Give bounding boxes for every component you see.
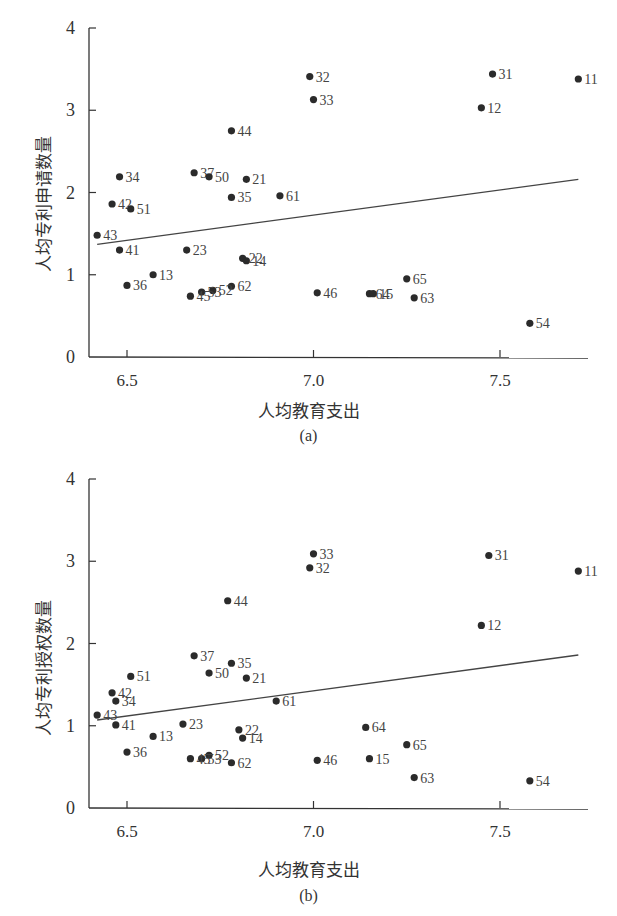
point-label: 23 xyxy=(189,717,203,732)
data-point: 33 xyxy=(310,93,334,108)
scatter-chart-a: 012346.57.07.511311232334437502134356142… xyxy=(0,0,617,458)
x-tick-label: 7.5 xyxy=(489,822,510,841)
point-label: 12 xyxy=(487,101,501,116)
point-label: 65 xyxy=(413,738,427,753)
data-points: 1131123233443750213435614251434123221413… xyxy=(94,67,598,331)
data-point: 63 xyxy=(411,291,435,306)
point-label: 61 xyxy=(286,189,300,204)
data-point: 36 xyxy=(123,278,147,293)
data-point: 13 xyxy=(150,729,174,744)
data-point: 32 xyxy=(306,70,330,85)
data-point: 15 xyxy=(370,287,394,302)
point-label: 35 xyxy=(237,656,251,671)
point-label: 32 xyxy=(316,70,330,85)
data-point: 46 xyxy=(314,286,338,301)
point-label: 23 xyxy=(193,243,207,258)
y-tick-label: 2 xyxy=(66,634,75,654)
data-point: 23 xyxy=(179,717,203,732)
data-point: 14 xyxy=(243,254,267,269)
axes: 012346.57.07.5 xyxy=(66,469,588,841)
data-point: 23 xyxy=(183,243,207,258)
data-point: 43 xyxy=(94,228,118,243)
point-label: 45 xyxy=(196,289,210,304)
point-label: 33 xyxy=(320,93,334,108)
data-point: 51 xyxy=(127,669,151,684)
y-tick-label: 0 xyxy=(66,798,75,818)
point-label: 44 xyxy=(234,594,248,609)
point-label: 45 xyxy=(196,752,210,767)
data-point: 45 xyxy=(187,752,211,767)
point-label: 11 xyxy=(584,564,597,579)
point-label: 13 xyxy=(159,268,173,283)
chart-b-caption: (b) xyxy=(0,887,617,905)
point-label: 50 xyxy=(215,666,229,681)
point-label: 46 xyxy=(323,286,337,301)
point-label: 31 xyxy=(495,548,509,563)
point-label: 14 xyxy=(252,254,266,269)
x-tick-label: 6.5 xyxy=(116,371,137,390)
point-label: 54 xyxy=(536,316,550,331)
data-point: 63 xyxy=(411,771,435,786)
point-label: 15 xyxy=(375,752,389,767)
point-label: 63 xyxy=(420,291,434,306)
point-label: 41 xyxy=(122,718,136,733)
point-label: 43 xyxy=(103,228,117,243)
data-point: 12 xyxy=(478,618,502,633)
y-tick-label: 3 xyxy=(66,551,75,571)
data-point: 31 xyxy=(485,548,509,563)
data-point: 62 xyxy=(228,756,252,771)
point-label: 43 xyxy=(103,708,117,723)
x-tick-label: 7.5 xyxy=(489,371,510,390)
point-label: 62 xyxy=(237,756,251,771)
data-point: 37 xyxy=(191,649,215,664)
data-point: 61 xyxy=(276,189,300,204)
point-label: 44 xyxy=(237,124,251,139)
data-point: 14 xyxy=(239,731,263,746)
data-point: 12 xyxy=(478,101,502,116)
data-point: 11 xyxy=(575,72,598,87)
x-tick-label: 6.5 xyxy=(116,822,137,841)
point-label: 33 xyxy=(320,547,334,562)
data-point: 34 xyxy=(112,694,136,709)
point-label: 36 xyxy=(133,745,147,760)
point-label: 12 xyxy=(487,618,501,633)
data-point: 32 xyxy=(306,561,330,576)
point-label: 32 xyxy=(316,561,330,576)
data-point: 65 xyxy=(403,272,427,287)
data-point: 45 xyxy=(187,289,211,304)
chart-b-y-axis-label: 人均专利授权数量 xyxy=(30,600,55,736)
data-point: 43 xyxy=(94,708,118,723)
point-label: 15 xyxy=(379,287,393,302)
trend-line xyxy=(97,179,578,244)
chart-a-x-axis-label: 人均教育支出 xyxy=(0,397,617,422)
point-label: 46 xyxy=(323,753,337,768)
y-tick-label: 1 xyxy=(66,265,75,285)
point-label: 34 xyxy=(126,170,140,185)
data-point: 13 xyxy=(150,268,174,283)
data-point: 54 xyxy=(526,316,550,331)
point-label: 21 xyxy=(252,671,266,686)
trend-line xyxy=(97,655,578,720)
data-point: 33 xyxy=(310,547,334,562)
data-point: 11 xyxy=(575,564,598,579)
point-label: 65 xyxy=(413,272,427,287)
data-point: 36 xyxy=(123,745,147,760)
data-point: 41 xyxy=(116,243,140,258)
point-label: 31 xyxy=(499,67,513,82)
y-tick-label: 4 xyxy=(66,469,75,489)
chart-b-plot: 012346.57.07.533323111124437355021514234… xyxy=(0,458,617,916)
chart-b-x-axis-label: 人均教育支出 xyxy=(0,856,617,881)
point-label: 62 xyxy=(237,279,251,294)
data-point: 46 xyxy=(314,753,338,768)
point-label: 50 xyxy=(215,170,229,185)
point-label: 13 xyxy=(159,729,173,744)
y-tick-label: 2 xyxy=(66,183,75,203)
data-point: 64 xyxy=(362,720,386,735)
data-point: 35 xyxy=(228,190,252,205)
point-label: 11 xyxy=(584,72,597,87)
x-tick-label: 7.0 xyxy=(303,371,324,390)
point-label: 61 xyxy=(282,694,296,709)
point-label: 14 xyxy=(249,731,263,746)
y-tick-label: 3 xyxy=(66,100,75,120)
point-label: 36 xyxy=(133,278,147,293)
